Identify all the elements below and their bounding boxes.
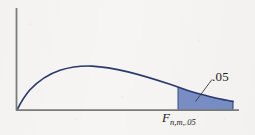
- distribution-plot: [0, 0, 255, 135]
- critical-value-symbol: F: [162, 110, 170, 125]
- critical-value-subscript: n,m,.05: [170, 117, 196, 127]
- tail-area-label: .05: [212, 70, 229, 83]
- critical-value-label: Fn,m,.05: [162, 111, 196, 124]
- f-distribution-figure: .05 Fn,m,.05: [0, 0, 255, 135]
